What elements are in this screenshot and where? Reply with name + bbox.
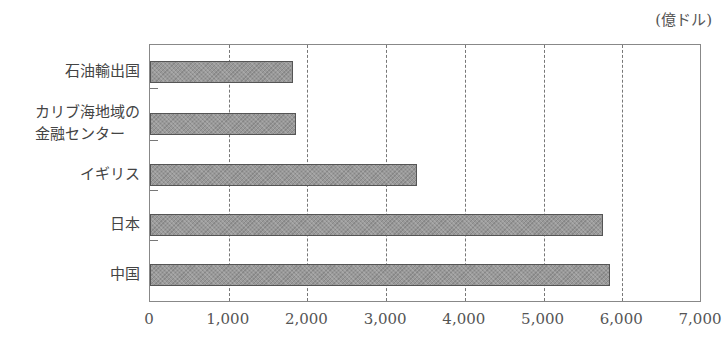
y-category-label: 日本 [110,213,140,235]
x-tick-label: 2,000 [285,310,328,328]
y-tick [150,190,158,191]
gridline [465,45,466,301]
gridline [622,45,623,301]
x-tick-label: 7,000 [679,310,722,328]
bar [150,61,293,83]
x-tick-label: 3,000 [364,310,407,328]
x-tick-label: 5,000 [521,310,564,328]
bar [150,264,610,286]
gridline [544,45,545,301]
y-category-label: 石油輸出国 [65,60,140,82]
y-category-label: カリブ海地域の金融センター [35,101,140,145]
y-tick [150,88,158,89]
y-tick [150,140,158,141]
x-tick-label: 6,000 [600,310,643,328]
x-tick-label: 1,000 [206,310,249,328]
plot-area [149,44,701,302]
bar [150,113,296,135]
x-tick-label: 0 [144,310,154,328]
bar [150,164,417,186]
bar [150,214,603,236]
y-category-label: イギリス [80,163,140,185]
y-tick [150,240,158,241]
unit-label: (億ドル) [655,8,712,29]
x-tick-label: 4,000 [442,310,485,328]
y-category-label: 中国 [110,263,140,285]
